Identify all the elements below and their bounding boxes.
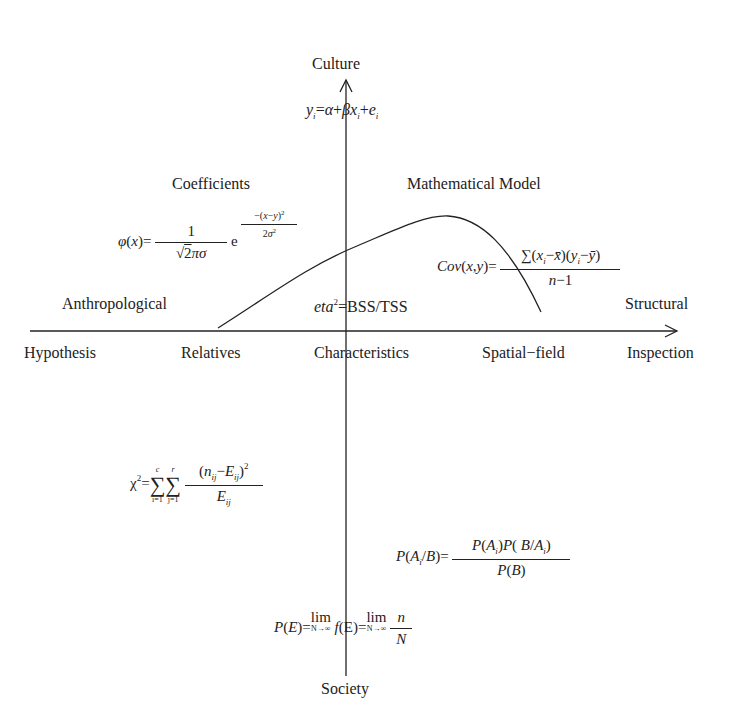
label-society: Society [321, 681, 369, 697]
label-coefficients: Coefficients [172, 176, 250, 192]
formula-normal-pdf: φ(x)= 1√2πσ e −(x−y)22σ2 [118, 210, 297, 261]
label-culture: Culture [312, 56, 360, 72]
label-anthropological: Anthropological [62, 296, 167, 312]
label-spatial-field: Spatial−field [482, 345, 565, 361]
formula-bayes: P(Ai/B)= P(Ai)P( B/Ai)P(B) [396, 538, 570, 578]
formula-eta-squared: eta2=BSS/TSS [314, 298, 408, 315]
formula-chi-square: χ2=c∑i=1r∑j=1 (nij−Eij)2Eij [130, 462, 263, 507]
label-mathematical-model: Mathematical Model [407, 176, 541, 192]
formula-covariance: Cov(x,y)= ∑(xi−x̄)(yi−ȳ)n−1 [437, 248, 620, 288]
formula-probability-limit: P(E)=limN→∞ f(E)=limN→∞ nN [274, 610, 412, 647]
label-relatives: Relatives [181, 345, 241, 361]
label-structural: Structural [625, 296, 688, 312]
label-inspection: Inspection [627, 345, 694, 361]
diagram-canvas: Culture Society Coefficients Mathematica… [0, 0, 756, 728]
formula-regression: yi=α+βxi+ei [306, 102, 378, 121]
label-hypothesis: Hypothesis [24, 345, 96, 361]
label-characteristics: Characteristics [314, 345, 409, 361]
